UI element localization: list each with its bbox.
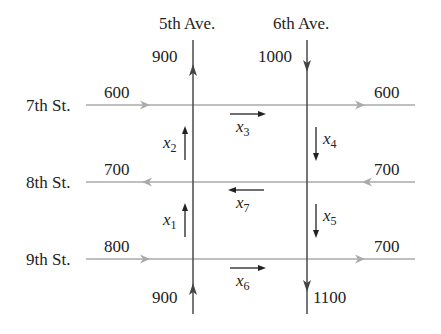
x3-label: x3 — [236, 118, 250, 138]
street-label-9th: 9th St. — [26, 251, 70, 268]
x1-arrow-icon — [182, 203, 188, 237]
variable-arrows — [182, 111, 319, 271]
x7-arrow-icon — [228, 187, 264, 193]
avenue-arrowheads — [189, 60, 311, 295]
5th-ave-top-flow: 900 — [152, 48, 178, 65]
7th-st-left-flow: 600 — [104, 84, 130, 101]
8th-st-right-flow: 700 — [374, 161, 400, 178]
7th-st-right-flow: 600 — [374, 84, 400, 101]
x2-arrow-icon — [182, 126, 188, 160]
x6-label: x6 — [236, 272, 250, 292]
x2-label: x2 — [163, 134, 177, 154]
x5-arrow-icon — [313, 204, 319, 238]
x4-arrow-icon — [313, 127, 319, 161]
avenue-lines — [193, 40, 307, 314]
9th-st-right-flow: 700 — [374, 238, 400, 255]
x1-label: x1 — [163, 211, 177, 231]
street-label-7th: 7th St. — [26, 97, 70, 114]
8th-st-left-flow: 700 — [104, 161, 130, 178]
x7-label: x7 — [236, 194, 250, 214]
x5-label: x5 — [323, 207, 337, 227]
6th-ave-bottom-flow: 1100 — [313, 289, 346, 306]
avenue-label-6th: 6th Ave. — [273, 15, 329, 32]
5th-ave-bottom-flow: 900 — [152, 289, 178, 306]
street-label-8th: 8th St. — [26, 174, 70, 191]
x4-label: x4 — [323, 130, 337, 150]
avenue-label-5th: 5th Ave. — [159, 15, 215, 32]
6th-ave-top-flow: 1000 — [258, 48, 292, 65]
9th-st-left-flow: 800 — [104, 238, 130, 255]
